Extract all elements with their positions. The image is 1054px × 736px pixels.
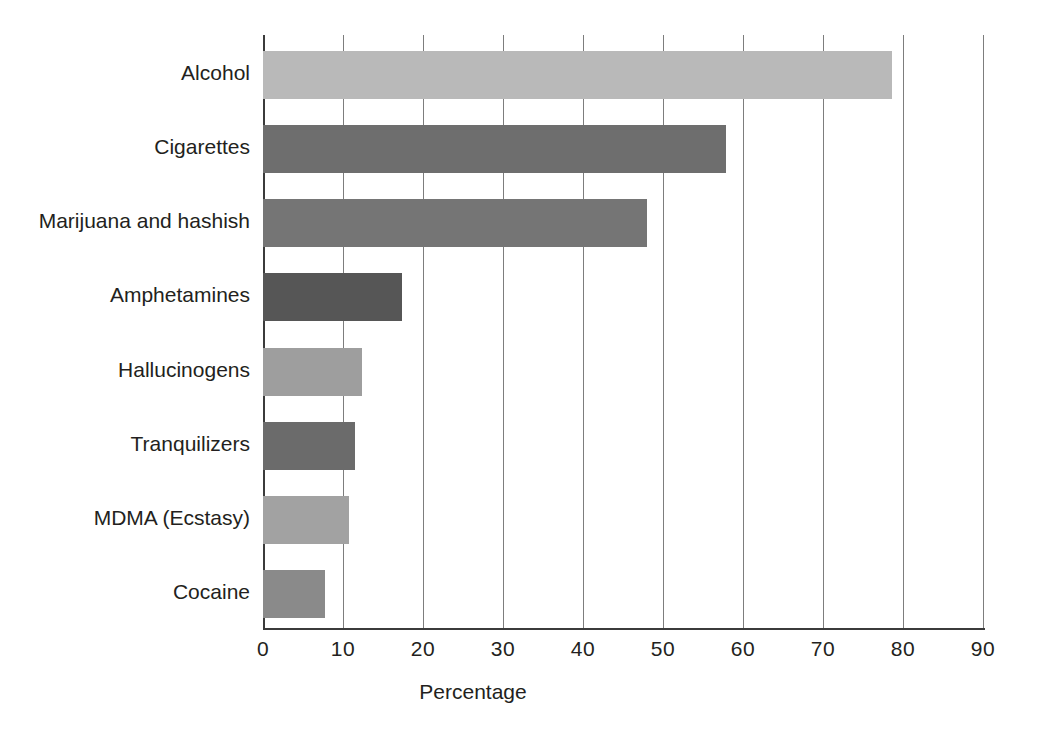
x-tick-label: 30 — [491, 637, 515, 661]
category-label: Cocaine — [0, 580, 250, 604]
x-tick-label: 80 — [891, 637, 915, 661]
gridline-60 — [743, 35, 744, 628]
category-label: Cigarettes — [0, 135, 250, 159]
bar — [263, 496, 349, 544]
gridline-90 — [983, 35, 984, 628]
bar — [263, 348, 362, 396]
gridline-30 — [503, 35, 504, 628]
x-tick-label: 40 — [571, 637, 595, 661]
gridline-80 — [903, 35, 904, 628]
gridline-40 — [583, 35, 584, 628]
bar — [263, 199, 647, 247]
bar — [263, 125, 726, 173]
x-axis-title-text: Percentage — [419, 680, 526, 704]
bar-chart: AlcoholCigarettesMarijuana and hashishAm… — [0, 0, 1054, 736]
x-tick-label: 50 — [651, 637, 675, 661]
category-label: MDMA (Ecstasy) — [0, 506, 250, 530]
x-tick-label: 10 — [331, 637, 355, 661]
bar — [263, 422, 355, 470]
x-tick-label: 60 — [731, 637, 755, 661]
category-label: Hallucinogens — [0, 358, 250, 382]
gridline-20 — [423, 35, 424, 628]
x-tick-label: 70 — [811, 637, 835, 661]
category-label: Marijuana and hashish — [0, 209, 250, 233]
x-axis-title: Percentage — [0, 680, 1054, 704]
category-label: Tranquilizers — [0, 432, 250, 456]
x-tick-label: 90 — [971, 637, 995, 661]
x-tick-label: 20 — [411, 637, 435, 661]
gridline-70 — [823, 35, 824, 628]
x-axis-line — [263, 628, 985, 630]
gridline-50 — [663, 35, 664, 628]
category-label: Alcohol — [0, 61, 250, 85]
x-tick-label: 0 — [257, 637, 269, 661]
category-label: Amphetamines — [0, 283, 250, 307]
bar — [263, 51, 892, 99]
bar — [263, 570, 325, 618]
bar — [263, 273, 402, 321]
